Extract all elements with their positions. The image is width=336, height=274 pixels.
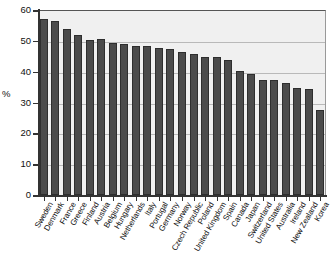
bar (247, 74, 255, 195)
bar (178, 52, 186, 195)
y-axis-title: % (2, 88, 10, 99)
x-axis-tick-mark (240, 196, 241, 201)
x-axis-tick-mark (90, 196, 91, 201)
x-axis-tick-mark (194, 196, 195, 201)
bar (51, 21, 59, 195)
x-axis-tick-mark (263, 196, 264, 201)
bar-chart: 0102030405060 % SwedenDenmarkFranceGreec… (0, 0, 336, 274)
x-axis-tick-mark (124, 196, 125, 201)
x-axis-tick-mark (251, 196, 252, 201)
x-axis-tick-mark (205, 196, 206, 201)
bar (143, 46, 151, 195)
y-axis-tick-labels: 0102030405060 (0, 0, 31, 210)
y-axis-tick-mark (33, 133, 39, 135)
bar (166, 49, 174, 195)
y-axis-tick-label: 0 (1, 190, 31, 200)
bar (293, 88, 301, 195)
bar (236, 71, 244, 195)
bar (213, 57, 221, 195)
x-axis-tick-mark (217, 196, 218, 201)
bar (120, 44, 128, 195)
x-axis-tick-mark (78, 196, 79, 201)
y-axis-tick-mark (33, 103, 39, 105)
bar (305, 89, 313, 195)
bar (201, 57, 209, 195)
x-axis-tick-mark (159, 196, 160, 201)
x-axis-tick-labels: SwedenDenmarkFranceGreeceFinlandAustriaB… (0, 201, 336, 274)
y-axis-tick-label: 60 (1, 5, 31, 15)
bar (132, 46, 140, 195)
y-axis-tick-mark (33, 41, 39, 43)
bar (224, 60, 232, 195)
bar (74, 35, 82, 195)
bar (63, 29, 71, 196)
y-axis-tick-mark (33, 195, 39, 197)
bar (270, 80, 278, 195)
bar (40, 19, 48, 195)
y-axis-tick-label: 10 (1, 159, 31, 169)
bar (86, 40, 94, 195)
x-axis-tick-mark (113, 196, 114, 201)
y-axis-tick-mark (33, 72, 39, 74)
bar (282, 83, 290, 195)
x-axis-tick-mark (44, 196, 45, 201)
x-axis-tick-mark (170, 196, 171, 201)
bar (109, 43, 117, 195)
x-axis-tick-mark (274, 196, 275, 201)
x-axis-tick-mark (101, 196, 102, 201)
x-axis-tick-mark (182, 196, 183, 201)
y-axis-tick-label: 50 (1, 36, 31, 46)
y-axis-tick-mark (33, 10, 39, 12)
bar (97, 39, 105, 195)
bars-layer (38, 10, 326, 195)
y-axis-tick-label: 20 (1, 128, 31, 138)
bar (155, 48, 163, 195)
bar (259, 80, 267, 195)
x-axis-tick-mark (320, 196, 321, 201)
x-axis-tick-mark (309, 196, 310, 201)
x-axis-tick-mark (228, 196, 229, 201)
x-axis-tick-mark (136, 196, 137, 201)
x-axis-tick-mark (147, 196, 148, 201)
bar (190, 54, 198, 195)
y-axis-tick-mark (33, 164, 39, 166)
y-axis-tick-label: 40 (1, 67, 31, 77)
x-axis-tick-mark (297, 196, 298, 201)
x-axis-tick-mark (67, 196, 68, 201)
x-axis-tick-mark (55, 196, 56, 201)
bar (316, 110, 324, 195)
x-axis-tick-mark (286, 196, 287, 201)
